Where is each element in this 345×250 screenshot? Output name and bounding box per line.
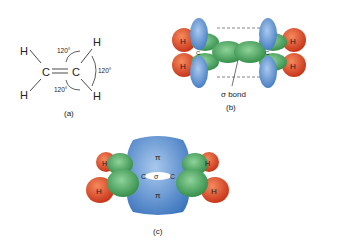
angle-label: 120° (98, 67, 112, 74)
panel-b-sigma-framework: H H H H C C σ bond (b) (172, 18, 306, 112)
ethylene-bonding-diagram: H H C C H H 120° 120° 120° (a) (0, 0, 345, 250)
atom-h: H (93, 36, 101, 48)
panel-c-caption: (c) (153, 227, 163, 236)
atom-h: H (180, 62, 186, 71)
atom-h: H (20, 45, 28, 57)
atom-h: H (290, 37, 296, 46)
atom-c: C (72, 66, 80, 78)
sigma-label: σ (154, 173, 159, 180)
angle-label: 120° (54, 86, 68, 93)
atom-h: H (102, 160, 107, 167)
panel-a-structure: H H C C H H 120° 120° 120° (a) (20, 36, 112, 118)
atom-c: C (265, 50, 270, 56)
pi-label-bottom: π (155, 191, 161, 200)
sigma-bond-label: σ bond (221, 90, 246, 99)
atom-c: C (196, 50, 201, 56)
panel-c-pi-bond: H H H H C C σ π π (c) (86, 136, 229, 236)
pi-label-top: π (155, 153, 161, 162)
atom-h: H (180, 37, 186, 46)
atom-h: H (211, 187, 217, 196)
atom-c: C (141, 173, 146, 180)
atom-h: H (205, 160, 210, 167)
angle-label: 120° (57, 47, 71, 54)
panel-b-caption: (b) (226, 103, 236, 112)
atom-c: C (170, 173, 175, 180)
atom-h: H (93, 90, 101, 102)
atom-h: H (290, 62, 296, 71)
atom-h: H (20, 89, 28, 101)
atom-c: C (42, 66, 50, 78)
panel-a-caption: (a) (64, 109, 74, 118)
atom-h: H (96, 187, 102, 196)
